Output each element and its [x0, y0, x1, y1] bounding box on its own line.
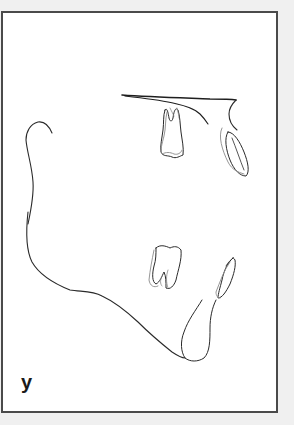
anterior-maxilla — [229, 100, 237, 130]
upper-incisor — [220, 128, 248, 176]
panel-label: y — [21, 372, 32, 392]
lower-molar — [149, 246, 181, 289]
lower-incisor — [216, 258, 235, 298]
symphysis — [181, 300, 216, 361]
palatal-plane — [122, 95, 236, 124]
cephalometric-tracing — [0, 0, 294, 425]
ramus-condyle — [26, 122, 52, 224]
upper-molar — [161, 108, 184, 158]
figure-stage: y — [0, 0, 294, 425]
